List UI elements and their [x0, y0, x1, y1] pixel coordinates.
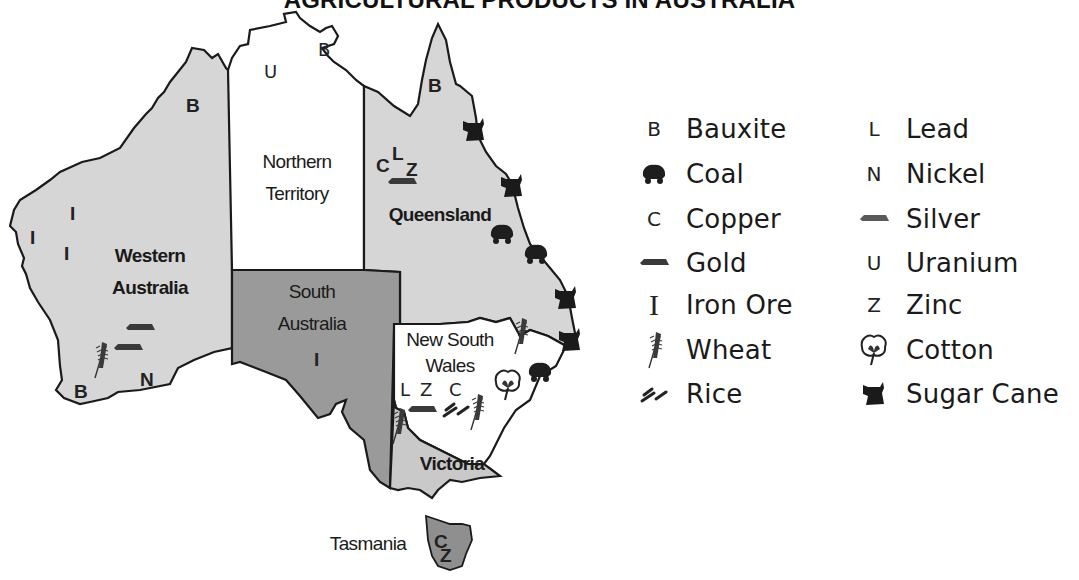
- legend-item-silver: Silver: [856, 204, 980, 234]
- symbol-zinc: Z: [440, 545, 452, 566]
- legend-item-bauxite: B Bauxite: [636, 114, 786, 144]
- lead-letter-icon: L: [856, 117, 892, 141]
- symbol-iron-ore: I: [30, 227, 35, 248]
- legend-item-gold: Gold: [636, 248, 747, 278]
- legend-item-rice: Rice: [636, 379, 742, 409]
- bauxite-letter-icon: B: [636, 117, 672, 141]
- label-western-australia-2: Australia: [112, 277, 189, 298]
- rice-icon: [636, 383, 672, 405]
- legend-item-uranium: U Uranium: [856, 248, 1019, 278]
- coal-cart-icon: [636, 162, 672, 186]
- symbol-zinc: Z: [420, 379, 432, 400]
- label-new-south-wales-1: New South: [406, 329, 494, 350]
- silver-icon: [114, 344, 143, 350]
- region-south-australia: [232, 270, 400, 488]
- legend-item-wheat: Wheat: [636, 335, 771, 365]
- label-victoria: Victoria: [420, 453, 486, 474]
- label-tasmania: Tasmania: [330, 533, 408, 554]
- label-south-australia-1: South: [289, 281, 336, 302]
- silver-icon: [388, 178, 417, 184]
- label-new-south-wales-2: Wales: [425, 355, 474, 376]
- symbol-uranium: U: [264, 61, 277, 82]
- gold-bar-icon: [636, 257, 672, 269]
- symbol-lead: L: [400, 379, 410, 400]
- gold-icon: [126, 324, 155, 330]
- symbol-bauxite: B: [428, 75, 442, 96]
- label-western-australia-1: Western: [115, 245, 185, 266]
- symbol-nickel: N: [140, 369, 154, 390]
- legend-item-sugar-cane: Sugar Cane: [856, 379, 1059, 409]
- symbol-copper: C: [449, 379, 462, 400]
- copper-letter-icon: C: [636, 207, 672, 231]
- label-south-australia-2: Australia: [278, 313, 348, 334]
- symbol-iron-ore: I: [314, 349, 319, 370]
- silver-icon: [408, 406, 437, 412]
- legend-item-iron-ore: I Iron Ore: [636, 290, 793, 320]
- iron-ore-letter-icon: I: [636, 288, 672, 322]
- symbol-iron-ore: I: [64, 243, 69, 264]
- coal-icon: [529, 363, 551, 382]
- label-northern-territory-2: Territory: [265, 183, 329, 204]
- symbol-lead: L: [392, 143, 404, 164]
- wheat-icon: [636, 331, 672, 369]
- sugar-cane-icon: [856, 381, 892, 407]
- legend-item-nickel: N Nickel: [856, 159, 986, 189]
- symbol-copper: C: [376, 155, 390, 176]
- legend-item-cotton: Cotton: [856, 335, 994, 365]
- legend-item-coal: Coal: [636, 159, 744, 189]
- cotton-icon: [856, 333, 892, 367]
- label-northern-territory-1: Northern: [262, 151, 331, 172]
- region-northern-territory: [228, 12, 364, 270]
- zinc-letter-icon: Z: [856, 293, 892, 317]
- symbol-bauxite: B: [74, 381, 88, 402]
- symbol-bauxite: B: [186, 95, 200, 116]
- symbol-bauxite: B: [318, 39, 330, 60]
- australia-map: Northern Territory Western Australia Sou…: [0, 0, 620, 580]
- nickel-letter-icon: N: [856, 162, 892, 186]
- silver-bar-icon: [856, 213, 892, 225]
- symbol-iron-ore: I: [70, 203, 75, 224]
- label-queensland: Queensland: [389, 204, 492, 225]
- legend-item-lead: L Lead: [856, 114, 969, 144]
- legend-item-zinc: Z Zinc: [856, 290, 963, 320]
- symbol-zinc: Z: [406, 159, 418, 180]
- legend-item-copper: C Copper: [636, 204, 781, 234]
- uranium-letter-icon: U: [856, 251, 892, 275]
